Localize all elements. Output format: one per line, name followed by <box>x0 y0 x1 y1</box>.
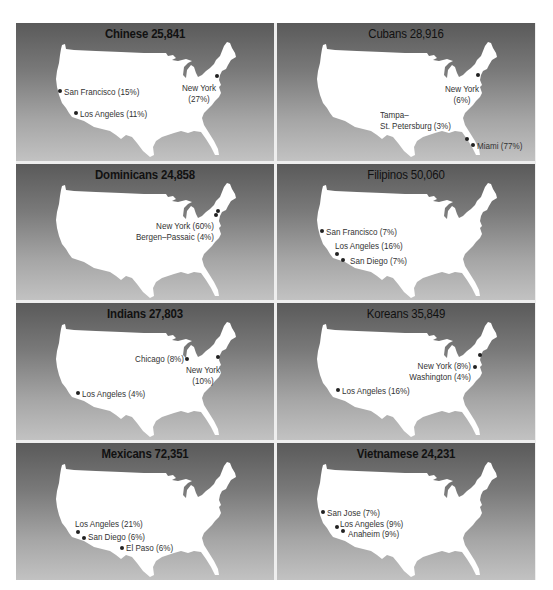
city-label: San Francisco (7%) <box>326 226 397 237</box>
city-dot-san-francisco <box>58 89 62 93</box>
panel-cubans: Cubans 28,916 New York (6%) Tampa– St. P… <box>277 23 535 161</box>
city-label: (10%) <box>182 375 225 386</box>
city-label: Chicago (8%) <box>126 353 184 364</box>
us-map-icon <box>16 23 274 161</box>
city-label: New York <box>182 364 225 375</box>
city-dot-tampa <box>465 137 469 141</box>
city-label: San Jose (7%) <box>327 507 380 518</box>
panel-title: Chinese 25,841 <box>31 26 258 41</box>
city-dot-new-york <box>476 73 480 77</box>
us-map-icon <box>277 164 535 300</box>
city-dot-new-york <box>216 355 220 359</box>
city-label: (6%) <box>441 94 484 105</box>
panel-title: Cubans 28,916 <box>292 26 519 41</box>
panel-vietnamese: Vietnamese 24,231 San Jose (7%) Los Ange… <box>277 443 535 580</box>
panel-title: Indians 27,803 <box>31 306 258 321</box>
panel-indians: Indians 27,803 Chicago (8%) New York (10… <box>16 303 274 440</box>
city-dot-new-york <box>478 353 482 357</box>
city-label: St. Petersburg (3%) <box>380 120 451 131</box>
panel-title: Vietnamese 24,231 <box>292 446 519 461</box>
panel-koreans: Koreans 35,849 New York (8%) Washington … <box>277 303 535 440</box>
city-label: New York (8%) <box>400 360 471 371</box>
city-dot-los-angeles <box>335 252 339 256</box>
city-label: New York <box>178 82 221 93</box>
city-label: New York <box>441 83 484 94</box>
panel-title: Dominicans 24,858 <box>31 167 258 182</box>
us-map-icon <box>16 303 274 440</box>
city-dot-miami <box>471 143 475 147</box>
city-dot-bergen-passaic <box>214 213 218 217</box>
city-label: Washington (4%) <box>391 371 471 382</box>
us-map-icon <box>277 443 535 580</box>
city-label: San Francisco (15%) <box>64 86 139 97</box>
panel-title: Mexicans 72,351 <box>31 446 258 461</box>
city-dot-chicago <box>185 357 189 361</box>
city-label: Tampa– <box>380 109 409 120</box>
city-label: Los Angeles (21%) <box>75 518 143 529</box>
city-dot-anaheim <box>341 529 345 533</box>
small-multiples-grid: Chinese 25,841 San Francisco (15%) Los A… <box>16 23 536 580</box>
city-label: Bergen–Passaic (4%) <box>122 231 214 242</box>
city-dot-los-angeles <box>336 388 340 392</box>
city-label: San Diego (6%) <box>88 531 145 542</box>
city-label: El Paso (6%) <box>126 542 173 553</box>
panel-title: Koreans 35,849 <box>292 306 519 321</box>
city-label: New York (60%) <box>131 220 214 231</box>
city-dot-washington <box>473 365 477 369</box>
city-label: Los Angeles (16%) <box>335 240 403 251</box>
panel-mexicans: Mexicans 72,351 Los Angeles (21%) San Di… <box>16 443 274 580</box>
panel-title: Filipinos 50,060 <box>292 167 519 182</box>
panel-filipinos: Filipinos 50,060 San Francisco (7%) Los … <box>277 164 535 300</box>
city-label: Los Angeles (4%) <box>82 388 145 399</box>
city-dot-san-jose <box>321 510 325 514</box>
city-label: San Diego (7%) <box>350 255 407 266</box>
city-label: Miami (77%) <box>477 140 522 151</box>
city-dot-san-francisco <box>320 229 324 233</box>
city-dot-san-diego <box>341 258 345 262</box>
city-label: Los Angeles (11%) <box>80 108 147 119</box>
city-label: (27%) <box>178 93 221 104</box>
city-dot-los-angeles <box>74 111 78 115</box>
city-label: Anaheim (9%) <box>348 528 399 539</box>
city-dot-los-angeles <box>76 530 80 534</box>
city-label: Los Angeles (16%) <box>342 385 410 396</box>
city-dot-los-angeles <box>335 525 339 529</box>
panel-dominicans: Dominicans 24,858 New York (60%) Bergen–… <box>16 164 274 300</box>
panel-chinese: Chinese 25,841 San Francisco (15%) Los A… <box>16 23 274 161</box>
city-dot-new-york <box>215 74 219 78</box>
city-dot-el-paso <box>120 546 124 550</box>
city-dot-los-angeles <box>76 391 80 395</box>
us-map-icon <box>16 443 274 580</box>
city-dot-san-diego <box>82 536 86 540</box>
